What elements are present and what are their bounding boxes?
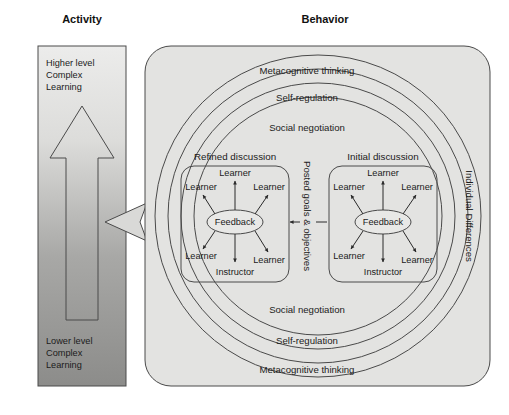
behavior-header: Behavior — [301, 13, 349, 25]
activity-top-label-line-2: Complex — [46, 70, 83, 80]
initial-node-top-left: Learner — [333, 182, 365, 192]
ring-label-bottom-metacognitive: Metacognitive thinking — [260, 364, 355, 375]
posted-goals-objectives-label: Posted goals & objectives — [302, 161, 313, 271]
refined-node-top-left: Learner — [185, 182, 217, 192]
refined-node-bottom-instructor: Instructor — [216, 267, 254, 277]
initial-node-bottom-right: Learner — [401, 255, 433, 265]
refined-discussion-title: Refined discussion — [194, 151, 276, 162]
ring-label-bottom-social-negotiation: Social negotiation — [269, 304, 345, 315]
refined-node-bottom-left: Learner — [185, 251, 217, 261]
ring-label-top-metacognitive: Metacognitive thinking — [260, 65, 355, 76]
refined-feedback-label: Feedback — [215, 217, 256, 227]
conceptual-model-diagram: Activity Behavior Higher level Complex L… — [0, 0, 509, 415]
activity-top-label-line-1: Higher level — [46, 58, 95, 68]
individual-differences-label: Individual Differences — [464, 170, 475, 262]
ring-label-top-social-negotiation: Social negotiation — [269, 122, 345, 133]
activity-bottom-label-line-1: Lower level — [46, 336, 92, 346]
ring-label-bottom-self-regulation: Self-regulation — [276, 335, 338, 346]
activity-bottom-label-line-3: Learning — [46, 360, 82, 370]
initial-node-bottom-instructor: Instructor — [364, 267, 402, 277]
activity-panel — [38, 46, 126, 386]
initial-node-top-right: Learner — [401, 182, 433, 192]
initial-discussion-title: Initial discussion — [347, 151, 418, 162]
initial-node-top: Learner — [367, 168, 399, 178]
activity-top-label-line-3: Learning — [46, 82, 82, 92]
activity-header: Activity — [62, 13, 103, 25]
refined-node-top: Learner — [219, 168, 251, 178]
refined-node-bottom-right: Learner — [253, 255, 285, 265]
initial-feedback-label: Feedback — [363, 217, 404, 227]
initial-node-bottom-left: Learner — [333, 251, 365, 261]
ring-label-top-self-regulation: Self-regulation — [276, 92, 338, 103]
activity-bottom-label-line-2: Complex — [46, 348, 83, 358]
diagram-canvas: Activity Behavior Higher level Complex L… — [0, 0, 509, 415]
refined-node-top-right: Learner — [253, 182, 285, 192]
